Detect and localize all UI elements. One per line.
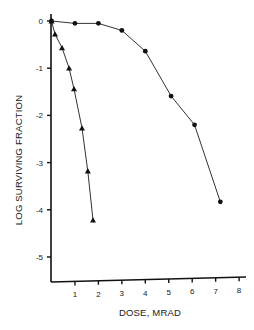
circle-marker xyxy=(73,21,78,26)
circle-marker xyxy=(119,28,124,33)
series-circles xyxy=(49,19,223,205)
x-axis-title: DOSE, MRAD xyxy=(119,307,181,318)
triangle-marker xyxy=(66,65,72,70)
triangle-marker xyxy=(52,31,58,36)
triangle-marker xyxy=(59,45,65,50)
y-tick-label: -2 xyxy=(36,111,44,120)
x-tick-label: 7 xyxy=(213,287,218,296)
circle-marker xyxy=(169,94,174,99)
y-tick-label: -3 xyxy=(36,159,44,168)
survival-curve-chart: 0-1-2-3-4-5 12345678 DOSE, MRAD LOG SURV… xyxy=(0,0,254,330)
triangle-marker xyxy=(71,86,77,91)
x-tick-label: 5 xyxy=(167,288,172,297)
triangle-marker xyxy=(79,125,85,130)
circle-marker xyxy=(96,21,101,26)
y-tick-label: 0 xyxy=(39,17,44,26)
x-axis-line xyxy=(51,277,246,282)
circle-marker xyxy=(218,199,223,204)
y-tick-label: -5 xyxy=(36,253,44,262)
series-line-circles xyxy=(52,21,221,202)
x-tick-label: 1 xyxy=(73,290,78,299)
y-axis-title: LOG SURVIVING FRACTION xyxy=(13,95,24,225)
series-triangles xyxy=(49,18,97,223)
x-tick-label: 3 xyxy=(120,289,125,298)
y-axis: 0-1-2-3-4-5 xyxy=(36,14,51,282)
x-axis: 12345678 xyxy=(51,277,246,299)
y-tick-label: -4 xyxy=(36,206,44,215)
circle-marker xyxy=(192,122,197,127)
y-tick-label: -1 xyxy=(36,64,44,73)
x-tick-label: 4 xyxy=(143,289,148,298)
triangle-marker xyxy=(90,217,96,222)
circle-marker xyxy=(143,49,148,54)
triangle-marker xyxy=(85,168,91,173)
x-tick-label: 8 xyxy=(237,286,242,295)
x-tick-label: 2 xyxy=(96,290,101,299)
data-series xyxy=(49,18,223,223)
x-tick-label: 6 xyxy=(190,287,195,296)
series-line-triangles xyxy=(52,21,94,220)
